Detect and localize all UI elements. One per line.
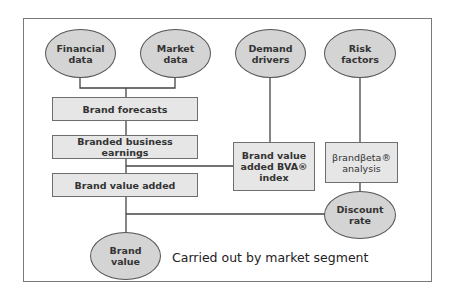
financial-data-node: Financial data (45, 29, 116, 78)
brandbeta-analysis-box: βrandβeta® analysis (325, 142, 398, 183)
brand-forecasts-box: Brand forecasts (52, 97, 198, 121)
market-data-node: Market data (140, 29, 211, 78)
brand-value-added-box: Brand value added (52, 173, 198, 197)
branded-business-earnings-box: Branded business earnings (52, 135, 198, 159)
bva-index-box: Brand value added BVA® index (233, 142, 315, 191)
brand-value-node: Brand value (90, 232, 161, 280)
discount-rate-node: Discount rate (324, 191, 396, 239)
demand-drivers-node: Demand drivers (235, 29, 306, 78)
market-segment-note: Carried out by market segment (172, 250, 368, 265)
risk-factors-node: Risk factors (324, 29, 396, 78)
